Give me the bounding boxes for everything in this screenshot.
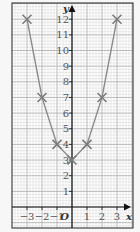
y-tick-label: 3 — [63, 155, 69, 166]
y-tick-label: 1 — [63, 186, 69, 197]
y-tick-label: 9 — [63, 61, 69, 72]
y-tick-label: 5 — [63, 123, 69, 134]
y-tick-label: 7 — [63, 92, 69, 103]
y-tick-label: 10 — [56, 45, 69, 56]
y-tick-label: 6 — [63, 108, 69, 119]
x-tick-label: 1 — [84, 211, 90, 222]
x-tick-label: 2 — [99, 211, 105, 222]
y-tick-label: 4 — [63, 139, 69, 150]
origin-label: O — [60, 211, 69, 222]
x-tick-label: 3 — [114, 211, 120, 222]
y-tick-label: 2 — [63, 170, 69, 181]
chart: −3−2−1123123456789101112Oxy — [0, 0, 140, 232]
x-tick-label: −3 — [20, 211, 35, 222]
x-tick-label: −2 — [35, 211, 50, 222]
y-tick-label: 8 — [63, 76, 69, 87]
y-tick-label: 12 — [56, 14, 69, 25]
y-tick-label: 11 — [56, 29, 69, 40]
x-axis-label: x — [125, 211, 133, 222]
y-axis-label: y — [62, 3, 70, 14]
